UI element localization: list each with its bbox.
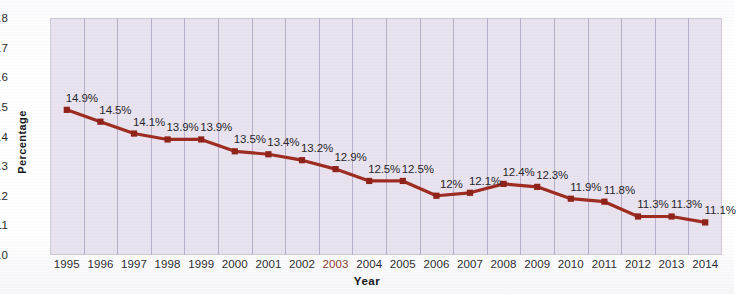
data-label-2009: 12.3%	[536, 169, 568, 181]
data-label-2014: 11.1%	[705, 204, 736, 216]
data-label-2006: 12%	[440, 178, 463, 190]
data-point-marker	[433, 193, 439, 199]
data-label-1995: 14.9%	[66, 92, 98, 104]
data-point-marker	[467, 190, 473, 196]
data-label-2013: 11.3%	[671, 198, 702, 210]
data-label-2003: 12.9%	[335, 151, 367, 163]
data-point-marker	[333, 166, 339, 172]
data-label-2008: 12.4%	[503, 166, 535, 178]
data-label-2005: 12.5%	[402, 163, 434, 175]
y-axis-tick: 10	[0, 249, 8, 261]
data-point-marker	[568, 196, 574, 202]
y-axis-tick: 15	[0, 101, 8, 113]
data-label-2000: 13.5%	[234, 133, 266, 145]
y-axis-tick: 16	[0, 71, 8, 83]
data-label-2010: 11.9%	[570, 181, 601, 193]
data-point-marker	[265, 151, 271, 157]
data-point-marker	[64, 107, 70, 113]
data-point-marker	[635, 213, 641, 219]
data-label-1997: 14.1%	[133, 116, 165, 128]
data-point-marker	[501, 181, 507, 187]
y-axis-tick: 13	[0, 160, 8, 172]
x-axis-tick-2014: 2014	[682, 258, 728, 270]
data-label-1998: 13.9%	[167, 121, 199, 133]
y-axis-tick: 11	[0, 219, 8, 231]
data-label-2004: 12.5%	[368, 163, 400, 175]
data-point-marker	[299, 157, 305, 163]
data-point-marker	[702, 219, 708, 225]
data-point-marker	[601, 199, 607, 205]
data-point-marker	[232, 148, 238, 154]
y-axis-title: Percentage	[16, 87, 28, 197]
data-label-1996: 14.5%	[99, 104, 131, 116]
data-point-marker	[534, 184, 540, 190]
data-point-marker	[165, 136, 171, 142]
x-axis-title: Year	[0, 275, 734, 287]
data-point-marker	[366, 178, 372, 184]
data-point-marker	[669, 213, 675, 219]
data-point-marker	[198, 136, 204, 142]
data-point-marker	[97, 119, 103, 125]
y-axis-tick: 12	[0, 190, 8, 202]
y-axis-tick: 18	[0, 12, 8, 24]
data-label-2001: 13.4%	[267, 136, 299, 148]
data-point-marker	[131, 130, 137, 136]
data-label-2011: 11.8%	[604, 184, 635, 196]
data-label-2007: 12.1%	[469, 175, 501, 187]
y-axis-tick: 14	[0, 131, 8, 143]
data-series	[50, 18, 722, 255]
y-axis-tick: 17	[0, 42, 8, 54]
data-label-2012: 11.3%	[637, 198, 668, 210]
data-label-2002: 13.2%	[301, 142, 333, 154]
data-label-1999: 13.9%	[200, 121, 232, 133]
data-point-marker	[400, 178, 406, 184]
